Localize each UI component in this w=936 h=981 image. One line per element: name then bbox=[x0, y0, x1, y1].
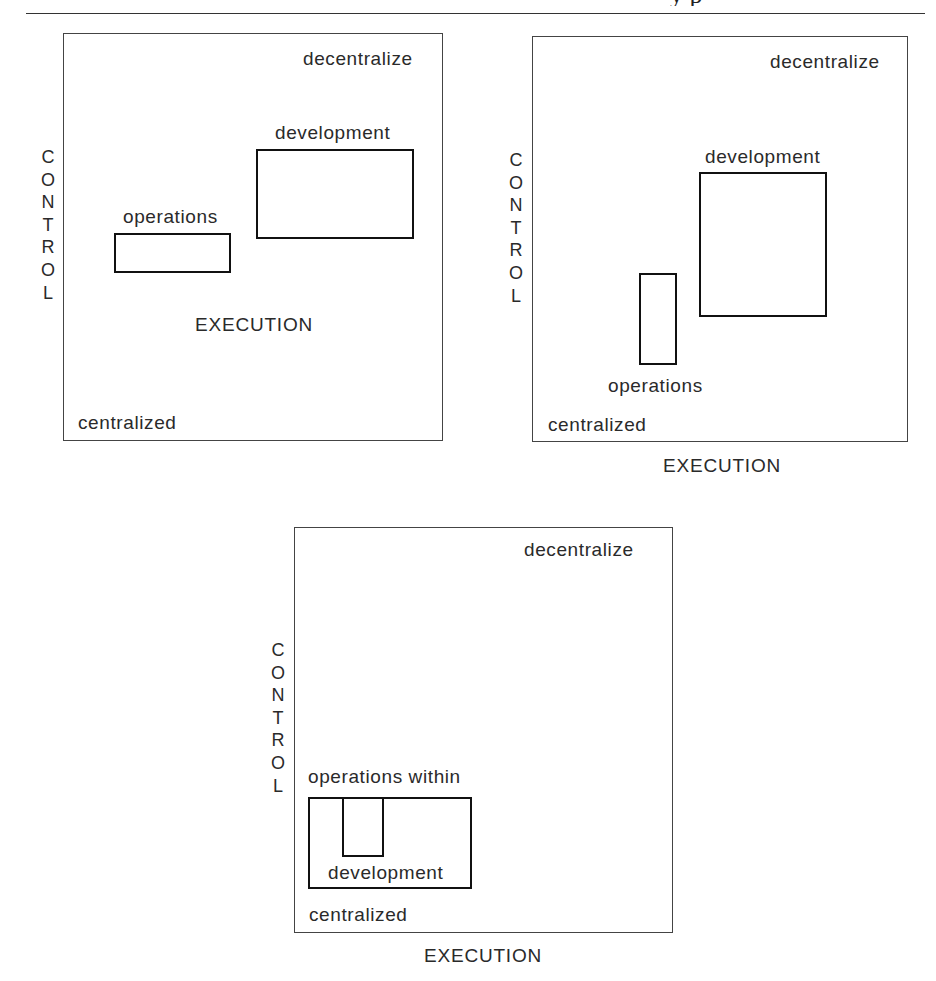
y-axis-letter: R bbox=[506, 239, 526, 262]
y-axis-letter: N bbox=[268, 684, 288, 707]
corner-label-centralized: centralized bbox=[309, 905, 407, 924]
y-axis-letter: O bbox=[506, 262, 526, 285]
box-development bbox=[699, 172, 827, 317]
running-head-text: y p bbox=[670, 0, 703, 6]
box-development bbox=[256, 149, 414, 239]
box-label-operations: operations bbox=[608, 376, 703, 395]
y-axis-letter: L bbox=[506, 285, 526, 308]
corner-label-decentralize: decentralize bbox=[303, 49, 413, 68]
corner-label-centralized: centralized bbox=[78, 413, 176, 432]
box-label-development: development bbox=[275, 123, 390, 142]
box-label-operations: operations bbox=[123, 207, 218, 226]
x-axis-label: EXECUTION bbox=[424, 946, 542, 965]
box-development bbox=[342, 797, 384, 857]
y-axis-letter: O bbox=[268, 752, 288, 775]
y-axis-letter: C bbox=[38, 146, 58, 169]
y-axis-letter: T bbox=[268, 707, 288, 730]
box-label-development: development bbox=[328, 863, 443, 882]
x-axis-label: EXECUTION bbox=[663, 456, 781, 475]
x-axis-label: EXECUTION bbox=[195, 315, 313, 334]
y-axis-letter: T bbox=[506, 217, 526, 240]
box-label-development: development bbox=[705, 147, 820, 166]
y-axis-letter: O bbox=[268, 662, 288, 685]
y-axis-letter: R bbox=[38, 236, 58, 259]
corner-label-centralized: centralized bbox=[548, 415, 646, 434]
y-axis-letter: O bbox=[38, 259, 58, 282]
corner-label-decentralize: decentralize bbox=[770, 52, 880, 71]
box-operations bbox=[114, 233, 231, 273]
box-label-operations-within: operations within bbox=[308, 767, 461, 786]
y-axis-letter: R bbox=[268, 729, 288, 752]
header-rule bbox=[26, 13, 925, 14]
corner-label-decentralize: decentralize bbox=[524, 540, 634, 559]
running-head-clipped: y p bbox=[560, 0, 860, 6]
y-axis-letter: L bbox=[38, 282, 58, 305]
y-axis-letter: L bbox=[268, 775, 288, 798]
y-axis-label: C O N T R O L bbox=[506, 149, 526, 307]
y-axis-label: C O N T R O L bbox=[38, 146, 58, 304]
y-axis-letter: C bbox=[506, 149, 526, 172]
box-operations bbox=[639, 273, 677, 365]
y-axis-letter: O bbox=[38, 169, 58, 192]
y-axis-label: C O N T R O L bbox=[268, 639, 288, 797]
y-axis-letter: N bbox=[506, 194, 526, 217]
y-axis-letter: N bbox=[38, 191, 58, 214]
y-axis-letter: O bbox=[506, 172, 526, 195]
y-axis-letter: C bbox=[268, 639, 288, 662]
y-axis-letter: T bbox=[38, 214, 58, 237]
